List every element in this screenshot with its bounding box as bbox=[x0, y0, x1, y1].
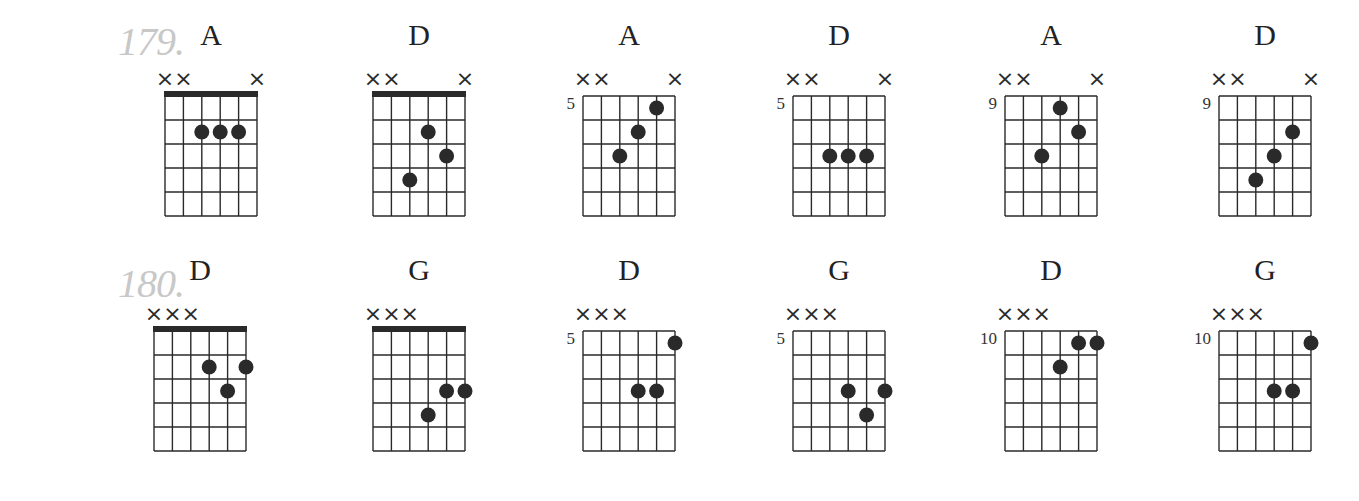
finger-dot-icon bbox=[649, 101, 664, 116]
muted-string-icon: × bbox=[382, 301, 400, 326]
chord-name: D bbox=[773, 18, 905, 52]
finger-dot-icon bbox=[402, 173, 417, 188]
fretboard-grid: ××× bbox=[783, 66, 895, 226]
fret-position-label: 10 bbox=[1187, 329, 1211, 349]
muted-string-icon: × bbox=[1088, 66, 1106, 91]
fretboard-grid: ××× bbox=[155, 66, 267, 226]
finger-dot-icon bbox=[1053, 101, 1068, 116]
muted-string-icon: × bbox=[996, 301, 1014, 326]
muted-string-icon: × bbox=[401, 301, 419, 326]
finger-dot-icon bbox=[1304, 336, 1319, 351]
muted-string-icon: × bbox=[592, 301, 610, 326]
muted-string-icon: × bbox=[174, 66, 192, 91]
muted-string-icon: × bbox=[1210, 301, 1228, 326]
finger-dot-icon bbox=[649, 384, 664, 399]
finger-dot-icon bbox=[1267, 384, 1282, 399]
chord-name: A bbox=[563, 18, 695, 52]
muted-string-icon: × bbox=[456, 66, 474, 91]
finger-dot-icon bbox=[1034, 149, 1049, 164]
nut-bar bbox=[153, 326, 247, 332]
muted-string-icon: × bbox=[611, 301, 629, 326]
muted-string-icon: × bbox=[784, 301, 802, 326]
finger-dot-icon bbox=[612, 149, 627, 164]
nut-bar bbox=[164, 91, 258, 97]
fret-position-label: 5 bbox=[761, 329, 785, 349]
finger-dot-icon bbox=[439, 149, 454, 164]
fret-position-label: 9 bbox=[1187, 94, 1211, 114]
fret-position-label: 5 bbox=[551, 94, 575, 114]
finger-dot-icon bbox=[859, 408, 874, 423]
finger-dot-icon bbox=[439, 384, 454, 399]
chord-name: G bbox=[1199, 253, 1331, 287]
muted-string-icon: × bbox=[1228, 66, 1246, 91]
finger-dot-icon bbox=[220, 384, 235, 399]
fretboard-grid: ××× bbox=[1209, 66, 1321, 226]
muted-string-icon: × bbox=[574, 301, 592, 326]
muted-string-icon: × bbox=[364, 66, 382, 91]
muted-string-icon: × bbox=[1302, 66, 1320, 91]
chord-name: D bbox=[134, 253, 266, 287]
chord-name: D bbox=[1199, 18, 1331, 52]
muted-string-icon: × bbox=[182, 301, 200, 326]
muted-string-icon: × bbox=[876, 66, 894, 91]
finger-dot-icon bbox=[878, 384, 893, 399]
muted-string-icon: × bbox=[145, 301, 163, 326]
finger-dot-icon bbox=[458, 384, 473, 399]
muted-string-icon: × bbox=[996, 66, 1014, 91]
muted-string-icon: × bbox=[666, 66, 684, 91]
finger-dot-icon bbox=[213, 125, 228, 140]
muted-string-icon: × bbox=[592, 66, 610, 91]
finger-dot-icon bbox=[1248, 173, 1263, 188]
muted-string-icon: × bbox=[248, 66, 266, 91]
fretboard-grid: ××× bbox=[1209, 301, 1321, 461]
fret-position-label: 10 bbox=[973, 329, 997, 349]
muted-string-icon: × bbox=[802, 301, 820, 326]
finger-dot-icon bbox=[421, 408, 436, 423]
finger-dot-icon bbox=[631, 384, 646, 399]
finger-dot-icon bbox=[1285, 125, 1300, 140]
muted-string-icon: × bbox=[1033, 301, 1051, 326]
fretboard-grid: ××× bbox=[783, 301, 895, 461]
muted-string-icon: × bbox=[1014, 66, 1032, 91]
muted-string-icon: × bbox=[156, 66, 174, 91]
finger-dot-icon bbox=[231, 125, 246, 140]
finger-dot-icon bbox=[631, 125, 646, 140]
fret-position-label: 9 bbox=[973, 94, 997, 114]
finger-dot-icon bbox=[1071, 125, 1086, 140]
finger-dot-icon bbox=[1053, 360, 1068, 375]
muted-string-icon: × bbox=[163, 301, 181, 326]
chord-name: A bbox=[145, 18, 277, 52]
finger-dot-icon bbox=[202, 360, 217, 375]
finger-dot-icon bbox=[194, 125, 209, 140]
muted-string-icon: × bbox=[382, 66, 400, 91]
muted-string-icon: × bbox=[1247, 301, 1265, 326]
fretboard-grid: ××× bbox=[573, 66, 685, 226]
fret-position-label: 5 bbox=[551, 329, 575, 349]
finger-dot-icon bbox=[1285, 384, 1300, 399]
muted-string-icon: × bbox=[574, 66, 592, 91]
nut-bar bbox=[372, 326, 466, 332]
muted-string-icon: × bbox=[1228, 301, 1246, 326]
chord-name: D bbox=[353, 18, 485, 52]
chord-name: G bbox=[773, 253, 905, 287]
fret-position-label: 5 bbox=[761, 94, 785, 114]
muted-string-icon: × bbox=[1210, 66, 1228, 91]
finger-dot-icon bbox=[668, 336, 683, 351]
chord-name: A bbox=[985, 18, 1117, 52]
finger-dot-icon bbox=[1267, 149, 1282, 164]
nut-bar bbox=[372, 91, 466, 97]
muted-string-icon: × bbox=[1014, 301, 1032, 326]
chord-name: G bbox=[353, 253, 485, 287]
fretboard-grid: ××× bbox=[573, 301, 685, 461]
fretboard-grid: ××× bbox=[363, 66, 475, 226]
fretboard-grid: ××× bbox=[995, 66, 1107, 226]
finger-dot-icon bbox=[859, 149, 874, 164]
finger-dot-icon bbox=[239, 360, 254, 375]
muted-string-icon: × bbox=[802, 66, 820, 91]
finger-dot-icon bbox=[822, 149, 837, 164]
fretboard-grid: ××× bbox=[144, 301, 256, 461]
finger-dot-icon bbox=[1090, 336, 1105, 351]
muted-string-icon: × bbox=[821, 301, 839, 326]
fretboard-grid: ××× bbox=[995, 301, 1107, 461]
muted-string-icon: × bbox=[784, 66, 802, 91]
